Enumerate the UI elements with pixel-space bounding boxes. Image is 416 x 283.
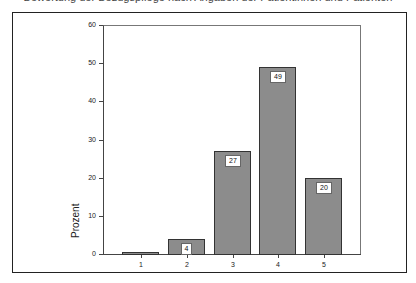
y-tick-label: 40 [70, 97, 96, 105]
x-tick [324, 255, 325, 258]
y-tick-label: 60 [70, 21, 96, 29]
x-tick [278, 255, 279, 258]
bar-data-label: 4 [181, 243, 192, 255]
y-tick-label: 0 [70, 250, 96, 258]
bar-data-label: 27 [225, 155, 241, 167]
x-tick [233, 255, 234, 258]
y-tick [99, 101, 103, 102]
bar-4 [259, 67, 296, 255]
y-tick-label: 20 [70, 174, 96, 182]
x-tick [187, 255, 188, 258]
y-tick [99, 140, 103, 141]
y-tick [99, 25, 103, 26]
y-tick-label: 50 [70, 59, 96, 67]
x-tick-label: 2 [177, 261, 197, 268]
y-tick-label: 30 [70, 136, 96, 144]
x-tick [141, 255, 142, 258]
y-tick [99, 254, 103, 255]
y-tick [99, 216, 103, 217]
x-tick-label: 5 [314, 261, 334, 268]
x-tick-label: 3 [223, 261, 243, 268]
bar-data-label: 49 [270, 71, 286, 83]
x-tick-label: 4 [268, 261, 288, 268]
cut-off-title: Bewertung der Bezugspflege nach Angaben … [0, 0, 416, 3]
y-axis-title: Prozent [70, 204, 81, 238]
x-tick-label: 1 [131, 261, 151, 268]
y-tick [99, 63, 103, 64]
bar-data-label: 20 [316, 182, 332, 194]
y-tick [99, 178, 103, 179]
